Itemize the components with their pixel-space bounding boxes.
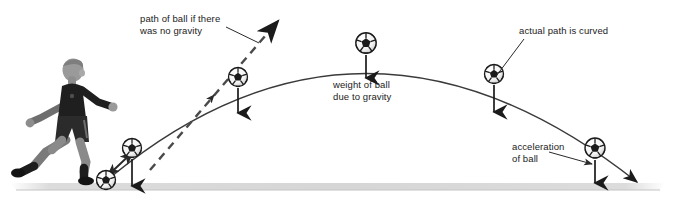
ball-apex <box>356 33 376 78</box>
label-path-no-gravity: path of ball if there was no gravity <box>140 13 220 36</box>
physics-diagram-projectile-motion: path of ball if there was no gravity wei… <box>0 0 675 201</box>
label-acceleration-of-ball: acceleration of ball <box>512 141 564 164</box>
ball-rising-high <box>229 68 248 114</box>
label-actual-path: actual path is curved <box>519 25 608 37</box>
label-weight-of-ball: weight of ball due to gravity <box>333 79 391 102</box>
ball-at-kick <box>97 171 116 190</box>
ball-near-ground <box>585 138 605 183</box>
ball-descending <box>485 65 504 113</box>
leader-no-gravity <box>226 27 259 43</box>
soccer-player-icon <box>11 59 118 186</box>
ball-rising-low <box>123 139 142 187</box>
leader-actual-path <box>497 39 524 75</box>
